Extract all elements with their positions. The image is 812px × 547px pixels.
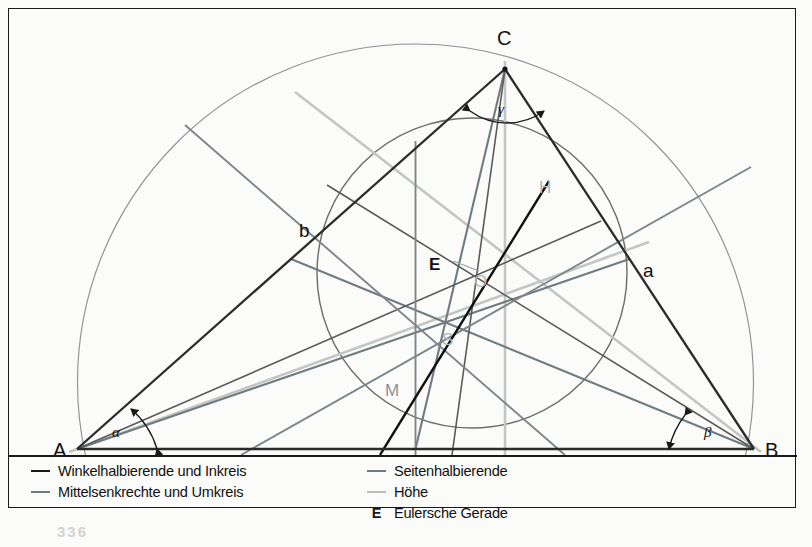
triangle-side-b	[77, 69, 505, 449]
legend-swatch-bisector	[31, 470, 50, 472]
vertex-dot-c	[502, 66, 507, 71]
legend-label-bisector: Winkelhalbierende und Inkreis	[58, 463, 246, 479]
figure-page: A B C a b c α β γ H O S M E	[0, 0, 812, 547]
perpendicular-bisectors-group	[185, 125, 751, 455]
legend: Winkelhalbierende und Inkreis Mittelsenk…	[9, 457, 797, 508]
vertex-label-b: B	[765, 439, 778, 455]
legend-column-right: Seitenhalbierende Höhe E Eulersche Gerad…	[367, 461, 508, 524]
side-label-a: a	[643, 260, 654, 281]
perpbisector-bc	[241, 167, 751, 455]
point-label-centroid: S	[442, 330, 453, 349]
angle-label-alpha: α	[112, 424, 121, 440]
legend-label-altitude: Höhe	[394, 484, 428, 500]
legend-label-perpbisector: Mittelsenkrechte und Umkreis	[58, 484, 243, 500]
vertex-label-c: C	[497, 27, 511, 49]
point-label-circumcenter: M	[385, 381, 399, 400]
angle-label-beta: β	[703, 424, 712, 440]
bisector-from-b	[327, 185, 754, 449]
median-from-a	[77, 259, 630, 449]
figure-frame: A B C a b c α β γ H O S M E	[8, 8, 796, 508]
bisector-from-a	[77, 221, 601, 449]
page-number: 336	[57, 523, 88, 540]
triangle-construction-svg: A B C a b c α β γ H O S M E	[9, 9, 797, 455]
legend-swatch-perpbisector	[31, 491, 50, 493]
legend-label-euler: Eulersche Gerade	[394, 505, 508, 521]
geometry-canvas: A B C a b c α β γ H O S M E	[9, 9, 797, 455]
triangle-side-a	[505, 69, 754, 449]
legend-item-bisector-incircle: Winkelhalbierende und Inkreis	[31, 461, 246, 482]
perpbisector-ac	[185, 125, 565, 455]
legend-item-euler-line: E Eulersche Gerade	[367, 503, 508, 524]
point-label-euler: E	[429, 255, 440, 274]
point-label-orthocenter: H	[539, 178, 551, 197]
legend-swatch-median	[367, 470, 386, 472]
incircle	[317, 118, 627, 428]
legend-column-left: Winkelhalbierende und Inkreis Mittelsenk…	[31, 461, 246, 503]
legend-swatch-altitude	[367, 491, 386, 493]
point-label-incenter: O	[474, 272, 487, 291]
legend-item-median: Seitenhalbierende	[367, 461, 508, 482]
legend-swatch-euler: E	[367, 505, 386, 521]
legend-label-median: Seitenhalbierende	[394, 463, 507, 479]
side-label-b: b	[299, 220, 310, 241]
altitude-from-b	[295, 92, 761, 452]
legend-item-perpbisector-circumcircle: Mittelsenkrechte und Umkreis	[31, 482, 246, 503]
legend-item-altitude: Höhe	[367, 482, 508, 503]
vertex-label-a: A	[53, 439, 67, 455]
